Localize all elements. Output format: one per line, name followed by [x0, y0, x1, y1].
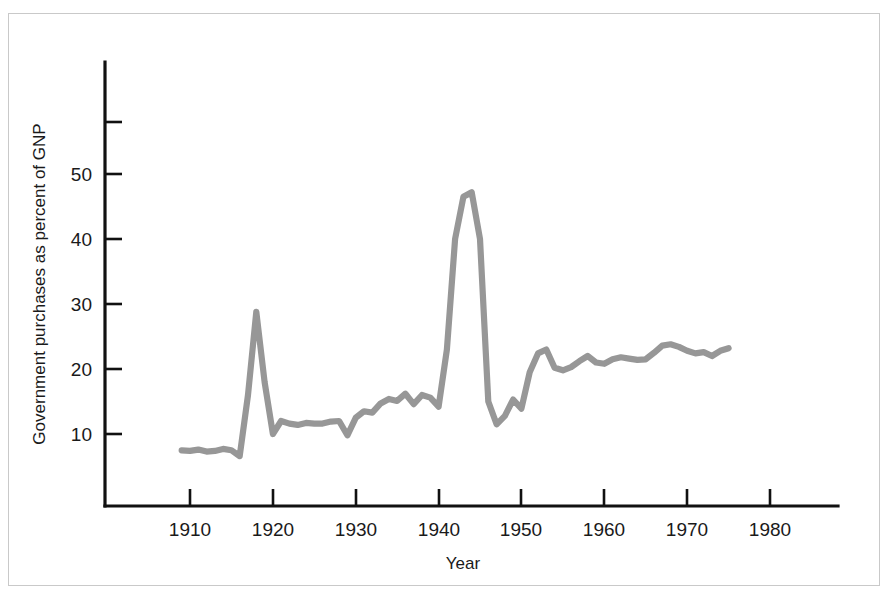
- chart-page: 50 40 30 20 10 1910 1920 1930 1940 1950 …: [0, 0, 894, 603]
- x-tick-label-1940: 1940: [418, 519, 460, 540]
- y-tick-label-50: 50: [71, 164, 92, 185]
- y-tick-label-30: 30: [71, 294, 92, 315]
- y-tick-label-40: 40: [71, 229, 92, 250]
- y-axis-title: Government purchases as percent of GNP: [30, 123, 49, 444]
- line-chart: 50 40 30 20 10 1910 1920 1930 1940 1950 …: [0, 0, 894, 603]
- y-tick-label-10: 10: [71, 424, 92, 445]
- x-tick-label-1960: 1960: [583, 519, 625, 540]
- y-tick-label-20: 20: [71, 359, 92, 380]
- x-tick-label-1980: 1980: [749, 519, 791, 540]
- x-axis-title: Year: [446, 554, 481, 573]
- x-tick-label-1970: 1970: [666, 519, 708, 540]
- x-tick-label-1910: 1910: [169, 519, 211, 540]
- x-tick-label-1950: 1950: [500, 519, 542, 540]
- data-series-line: [182, 192, 729, 456]
- x-tick-label-1930: 1930: [335, 519, 377, 540]
- x-tick-label-1920: 1920: [252, 519, 294, 540]
